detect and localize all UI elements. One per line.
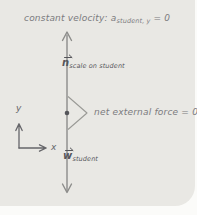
- normal-force-label: n scale on student: [62, 58, 125, 70]
- title-subscript: student, y: [117, 17, 151, 25]
- x-axis-label: x: [51, 143, 57, 152]
- weight-force-subscript: student: [72, 155, 98, 163]
- normal-force-symbol-wrap: n: [62, 58, 69, 68]
- free-body-diagram: constant velocity: astudent, y = 0 n sca…: [0, 0, 197, 215]
- net-force-label: net external force = 0: [94, 108, 197, 117]
- title-lead: constant velocity:: [24, 13, 111, 23]
- normal-force-subscript: scale on student: [69, 62, 124, 70]
- net-force-brace: [68, 97, 87, 130]
- y-axis-arrow-icon: [16, 124, 22, 148]
- diagram-title: constant velocity: astudent, y = 0: [24, 14, 170, 25]
- weight-force-label: w student: [63, 151, 98, 163]
- vector-arrow-icon: [65, 147, 74, 152]
- x-axis-arrow-icon: [19, 145, 46, 151]
- vector-arrow-icon: [64, 54, 73, 59]
- weight-force-symbol-wrap: w: [63, 151, 72, 161]
- title-tail: = 0: [150, 13, 170, 23]
- particle-dot: [65, 111, 70, 116]
- y-axis-label: y: [16, 104, 22, 113]
